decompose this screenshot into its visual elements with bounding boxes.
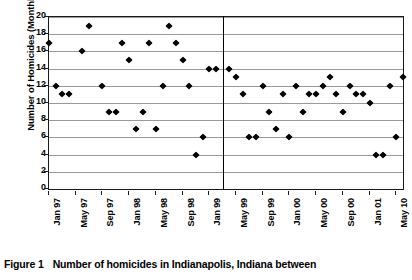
data-point (52, 82, 59, 89)
x-axis-tick-label: May 97 (79, 198, 89, 227)
data-point (319, 82, 326, 89)
data-point (152, 125, 159, 132)
x-axis-tick-mark (288, 191, 289, 195)
data-point (399, 74, 406, 81)
x-axis-tick-mark (369, 191, 370, 195)
x-axis-tick-label: Sep 00 (346, 198, 356, 226)
data-point (239, 91, 246, 98)
x-axis-tick-mark (75, 191, 76, 195)
data-point (326, 74, 333, 81)
data-point (359, 91, 366, 98)
x-axis-tick-label: Jan 98 (132, 198, 142, 225)
data-point (139, 108, 146, 115)
x-axis-tick-mark (128, 191, 129, 195)
x-axis-tick-label: Sep 97 (105, 198, 115, 226)
data-point (119, 39, 126, 46)
x-axis-tick-mark (48, 191, 49, 195)
data-point (259, 82, 266, 89)
data-point (339, 108, 346, 115)
data-point (266, 108, 273, 115)
data-point (273, 125, 280, 132)
plot-inner (49, 17, 403, 189)
data-point (172, 39, 179, 46)
data-point (366, 99, 373, 106)
data-point (393, 134, 400, 141)
x-axis-tick-labels: Jan 97May 97Sep 97Jan 98May 98Sep 98Jan … (48, 191, 404, 247)
data-point (132, 125, 139, 132)
data-point (166, 22, 173, 29)
x-axis-tick-label: Jan 99 (212, 198, 222, 225)
gridline (49, 137, 403, 138)
x-axis-tick-mark (315, 191, 316, 195)
data-point (293, 82, 300, 89)
gridline (49, 17, 403, 18)
data-point (146, 39, 153, 46)
data-point (313, 91, 320, 98)
x-axis-tick-label: May 00 (319, 198, 329, 227)
data-point (86, 22, 93, 29)
x-axis-tick-label: May 98 (159, 198, 169, 227)
data-point (226, 65, 233, 72)
gridline (49, 172, 403, 173)
x-axis-tick-label: Jan 00 (292, 198, 302, 225)
data-point (179, 56, 186, 63)
x-axis-tick-mark (235, 191, 236, 195)
gridline (49, 120, 403, 121)
data-point (306, 91, 313, 98)
x-axis-tick-mark (342, 191, 343, 195)
data-point (212, 65, 219, 72)
x-axis-tick-mark (262, 191, 263, 195)
data-point (65, 91, 72, 98)
data-point (99, 82, 106, 89)
x-axis-tick-mark (155, 191, 156, 195)
data-point (333, 91, 340, 98)
data-point (186, 82, 193, 89)
x-axis-tick-mark (395, 191, 396, 195)
x-axis-tick-label: Jan 97 (52, 198, 62, 225)
data-point (199, 134, 206, 141)
data-point (246, 134, 253, 141)
data-point (159, 82, 166, 89)
x-axis-tick-label: Sep 98 (186, 198, 196, 226)
data-point (112, 108, 119, 115)
figure-container: Number of Homicides (Monthly) 0246810121… (0, 0, 412, 280)
gridline (49, 155, 403, 156)
x-axis-tick-label: Sep 99 (266, 198, 276, 226)
gridline (49, 103, 403, 104)
data-point (353, 91, 360, 98)
x-axis-tick-label: May 10 (399, 198, 409, 227)
x-axis-tick-label: May 99 (239, 198, 249, 227)
data-point (386, 82, 393, 89)
data-point (253, 134, 260, 141)
data-point (232, 74, 239, 81)
x-axis-tick-mark (101, 191, 102, 195)
intervention-line (223, 16, 225, 190)
data-point (286, 134, 293, 141)
data-point (192, 151, 199, 158)
gridline (49, 34, 403, 35)
data-point (126, 56, 133, 63)
figure-caption-text: Number of homicides in Indianapolis, Ind… (53, 258, 317, 270)
data-point (299, 108, 306, 115)
y-axis-tick-marks (0, 16, 52, 190)
gridline (49, 51, 403, 52)
data-point (279, 91, 286, 98)
x-axis-tick-label: Jan 01 (373, 198, 383, 225)
figure-caption-label: Figure 1 (4, 258, 44, 270)
data-point (379, 151, 386, 158)
figure-caption: Figure 1Number of homicides in Indianapo… (4, 258, 408, 270)
x-axis-tick-mark (208, 191, 209, 195)
data-point (59, 91, 66, 98)
data-point (346, 82, 353, 89)
plot-area (48, 16, 404, 190)
x-axis-tick-mark (182, 191, 183, 195)
